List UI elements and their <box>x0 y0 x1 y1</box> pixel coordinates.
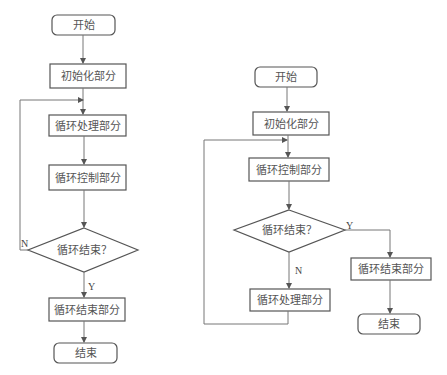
right-init-node: 初始化部分 <box>253 112 329 135</box>
left-process-label: 循环处理部分 <box>55 119 121 133</box>
left-control-node: 循环控制部分 <box>49 165 126 190</box>
right-no-label: N <box>295 265 302 276</box>
left-init-node: 初始化部分 <box>50 64 126 88</box>
right-decision-label: 循环结束？ <box>262 224 317 237</box>
right-start-node: 开始 <box>255 67 317 87</box>
right-decision-node: 循环结束？ <box>234 210 345 252</box>
left-finish-node: 循环结束部分 <box>49 298 125 321</box>
left-end-label: 结束 <box>75 347 97 360</box>
left-control-label: 循环控制部分 <box>55 171 121 185</box>
left-init-label: 初始化部分 <box>61 69 116 83</box>
right-finish-label: 循环结束部分 <box>358 262 424 276</box>
right-finish-node: 循环结束部分 <box>351 258 431 280</box>
left-yes-label: Y <box>88 281 95 292</box>
right-process-label: 循环处理部分 <box>257 293 323 307</box>
left-start-label: 开始 <box>73 18 95 32</box>
left-process-node: 循环处理部分 <box>49 115 126 136</box>
right-start-label: 开始 <box>275 70 297 84</box>
right-control-label: 循环控制部分 <box>256 163 322 177</box>
right-yes-label: Y <box>346 220 353 231</box>
right-end-label: 结束 <box>378 318 400 331</box>
left-decision-label: 循环结束？ <box>57 244 112 257</box>
right-control-node: 循环控制部分 <box>249 158 329 181</box>
left-decision-node: 循环结束？ <box>28 228 138 272</box>
right-init-label: 初始化部分 <box>264 117 319 131</box>
flowchart-canvas: 开始 初始化部分 循环处理部分 循环控制部分 循环结束？ N <box>0 0 447 375</box>
left-no-label: N <box>21 238 28 249</box>
right-flowchart: 开始 初始化部分 循环控制部分 循环结束？ Y 循环结束部分 <box>204 67 431 334</box>
right-process-node: 循环处理部分 <box>250 289 330 311</box>
left-end-node: 结束 <box>54 343 117 363</box>
left-start-node: 开始 <box>52 15 115 35</box>
right-end-node: 结束 <box>358 314 420 334</box>
left-flowchart: 开始 初始化部分 循环处理部分 循环控制部分 循环结束？ N <box>20 15 138 363</box>
right-edge-yes <box>345 230 390 257</box>
left-finish-label: 循环结束部分 <box>54 303 120 317</box>
